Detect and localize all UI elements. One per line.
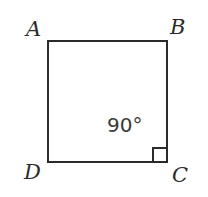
geometry-figure: A B C D 90°: [0, 0, 208, 197]
square-abcd-outline: [48, 41, 167, 162]
angle-measure-label: 90°: [107, 115, 142, 135]
vertex-label-a: A: [26, 19, 41, 40]
vertex-label-c: C: [172, 165, 188, 186]
vertex-label-b: B: [170, 17, 185, 38]
vertex-label-d: D: [24, 162, 41, 183]
